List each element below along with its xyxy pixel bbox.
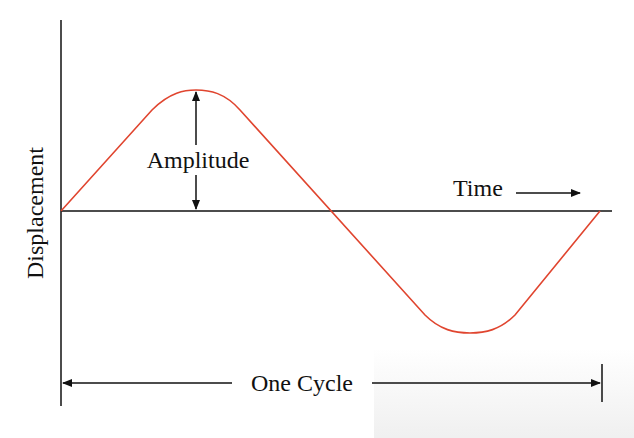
cycle-label: One Cycle <box>251 370 353 396</box>
sine-wave-diagram: Amplitude Time Displacement One Cycle <box>0 0 634 438</box>
amplitude-label: Amplitude <box>147 147 250 173</box>
y-axis-label: Displacement <box>22 147 48 279</box>
time-label: Time <box>453 175 503 201</box>
